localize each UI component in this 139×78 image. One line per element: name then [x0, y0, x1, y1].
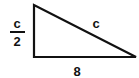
vertical-side-denominator: 2 — [13, 34, 20, 49]
right-triangle — [34, 5, 136, 57]
hypotenuse-label: c — [92, 16, 99, 31]
vertical-side-numerator: c — [13, 16, 20, 31]
base-label: 8 — [73, 64, 80, 78]
triangle-diagram: c 2 c 8 — [0, 0, 139, 78]
